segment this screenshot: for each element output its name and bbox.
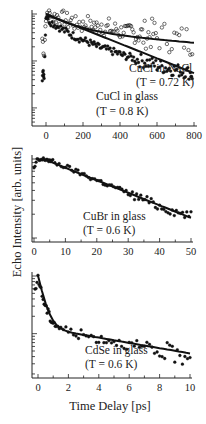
data-point-filled: [110, 50, 113, 53]
x-tick-label: 40: [154, 246, 165, 257]
data-point-filled: [156, 351, 159, 354]
x-tick-label: 20: [92, 246, 103, 257]
x-tick-label: 200: [75, 130, 91, 141]
data-point-open: [107, 17, 110, 20]
data-point-filled: [181, 363, 184, 366]
panel-cucl-annotation-glass: CuCl in glass (T = 0.8 K): [96, 90, 159, 118]
data-point-filled: [150, 197, 153, 200]
data-point-open: [65, 11, 68, 14]
panel-cubr-annotation: CuBr in glass (T = 0.6 K): [83, 210, 146, 237]
data-point-filled: [136, 58, 139, 61]
data-point-filled: [43, 77, 46, 80]
data-point-filled: [166, 341, 169, 344]
data-point-filled: [80, 329, 83, 332]
x-tick-label: 4: [96, 382, 102, 393]
data-point-filled: [179, 354, 182, 357]
data-point-open: [74, 15, 77, 18]
data-point-filled: [146, 195, 149, 198]
x-tick-label: 2: [66, 382, 71, 393]
data-point-filled: [75, 335, 78, 338]
data-point-filled: [162, 208, 165, 211]
y-axis-label: Echo Intensity [arb. units]: [10, 147, 24, 278]
data-point-filled: [77, 337, 80, 340]
x-tick-label: 50: [186, 246, 197, 257]
data-point-open: [42, 52, 45, 55]
x-tick-label: 10: [60, 246, 71, 257]
panel-cubr: CuBr in glass (T = 0.6 K) 01020304050: [31, 155, 196, 257]
data-point-filled: [43, 55, 46, 58]
data-point-open: [187, 48, 190, 51]
data-point-filled: [106, 45, 109, 48]
data-point-filled: [132, 56, 135, 59]
x-tick-label: 6: [127, 382, 132, 393]
data-point-filled: [129, 52, 132, 55]
data-point-filled: [98, 43, 101, 46]
data-point-filled: [124, 53, 127, 56]
data-point-filled: [65, 326, 68, 329]
data-point-open: [113, 22, 116, 25]
data-point-filled: [169, 213, 172, 216]
data-point-filled: [63, 31, 66, 34]
data-point-filled: [77, 169, 80, 172]
x-tick-label: 0: [35, 382, 40, 393]
data-point-open: [182, 46, 185, 49]
data-point-open: [185, 28, 188, 31]
data-point-filled: [109, 47, 112, 50]
data-point-open: [73, 27, 76, 30]
data-point-filled: [58, 30, 61, 33]
data-point-open: [100, 23, 103, 26]
x-tick-label: 400: [112, 130, 128, 141]
data-point-filled: [156, 208, 159, 211]
data-point-filled: [87, 41, 90, 44]
annotation-cubr-glass: CuBr in glass: [83, 210, 146, 223]
data-point-open: [143, 19, 146, 22]
data-point-filled: [88, 44, 91, 47]
data-point-open: [153, 21, 156, 24]
data-point-filled: [95, 45, 98, 48]
data-point-open: [150, 17, 153, 20]
data-point-open: [149, 45, 152, 48]
x-tick-label: 10: [185, 382, 196, 393]
panel-cucl-xticks: 0200400600800: [43, 122, 202, 141]
data-point-filled: [161, 355, 164, 358]
data-point-filled: [133, 198, 136, 201]
annotation-cucl-glass: CuCl in glass: [96, 90, 159, 103]
data-point-filled: [51, 158, 54, 161]
data-point-open: [132, 31, 135, 34]
data-point-filled: [78, 41, 81, 44]
data-point-filled: [173, 214, 176, 217]
data-point-open: [158, 47, 161, 50]
data-point-open: [89, 19, 92, 22]
data-point-filled: [68, 165, 71, 168]
x-tick-label: 8: [157, 382, 162, 393]
annotation-cucl-nacl-temp: (T = 0.72 K): [136, 76, 194, 89]
data-point-filled: [35, 161, 38, 164]
data-point-open: [78, 20, 81, 23]
data-point-filled: [189, 356, 192, 359]
data-point-open: [163, 22, 166, 25]
fit-curve: [43, 159, 191, 218]
data-point-filled: [35, 287, 38, 290]
figure: Echo Intensity [arb. units] CuCl in NaCl…: [0, 0, 206, 424]
annotation-cucl-nacl: CuCl in NaCl: [129, 62, 192, 74]
data-point-filled: [70, 328, 73, 331]
panel-cucl: CuCl in NaCl (T = 0.72 K) CuCl in glass …: [32, 9, 202, 141]
annotation-cdse-glass-temp: (T = 0.6 K): [85, 358, 137, 371]
data-point-filled: [163, 357, 166, 360]
data-point-open: [41, 40, 44, 43]
data-point-filled: [67, 30, 70, 33]
panel-cdse-annotation: CdSe in glass (T = 0.6 K): [85, 344, 148, 371]
data-point-filled: [44, 34, 47, 37]
data-point-filled: [184, 355, 187, 358]
panel-cucl-annotation-nacl: CuCl in NaCl (T = 0.72 K): [129, 62, 194, 89]
data-point-open: [96, 24, 99, 27]
annotation-cubr-glass-temp: (T = 0.6 K): [83, 224, 135, 237]
panel-cdse-xticks: 0246810: [35, 374, 195, 393]
data-point-open: [86, 14, 89, 17]
data-point-filled: [42, 69, 45, 72]
data-point-filled: [148, 59, 151, 62]
x-tick-label: 600: [149, 130, 165, 141]
data-point-filled: [111, 53, 114, 56]
data-point-filled: [112, 47, 115, 50]
data-point-open: [120, 26, 123, 29]
